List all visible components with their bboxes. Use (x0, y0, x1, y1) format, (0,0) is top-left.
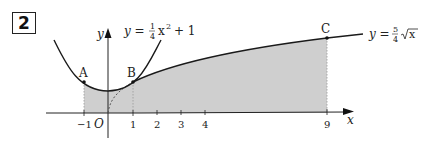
parabola-eq-lhs: y = (123, 24, 145, 38)
tick-label-neg1: −1 (77, 119, 92, 130)
root-equation: y = 5 4 x (368, 25, 418, 44)
x-axis-label: x (347, 113, 354, 127)
parabola-eq-var: x (158, 24, 165, 38)
origin-label: O (94, 117, 104, 131)
root-eq-num: 5 (393, 25, 398, 34)
tick-label-9: 9 (324, 119, 330, 130)
y-axis-label: y (96, 27, 104, 41)
point-c-label: C (321, 22, 330, 36)
point-a-label: A (78, 66, 88, 80)
y-axis-arrow-icon (105, 28, 112, 38)
parabola-eq-den: 4 (150, 32, 155, 41)
graph: A B C y x O −1 1 2 3 4 9 y = 1 4 x 2 + 1… (0, 0, 426, 141)
root-eq-radicand: x (409, 28, 416, 41)
tick-label-3: 3 (178, 119, 184, 130)
point-b-label: B (127, 66, 136, 80)
point-a (82, 80, 86, 84)
tick-label-1: 1 (130, 119, 136, 130)
point-b (131, 80, 135, 84)
parabola-eq-rest: + 1 (174, 24, 196, 38)
point-c (325, 36, 329, 40)
tick-label-4: 4 (202, 119, 208, 130)
parabola-eq-exp: 2 (166, 22, 171, 31)
shaded-area (84, 38, 327, 113)
root-eq-den: 4 (393, 35, 398, 44)
parabola-equation: y = 1 4 x 2 + 1 (123, 22, 196, 41)
parabola-eq-num: 1 (150, 22, 155, 31)
tick-label-2: 2 (154, 119, 160, 130)
root-eq-lhs: y = (368, 27, 390, 41)
